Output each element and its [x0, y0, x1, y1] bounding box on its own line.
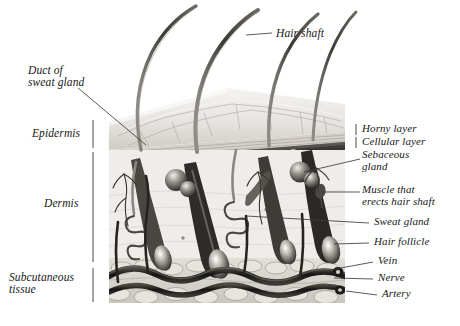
- label-duct-of-sweat-gland: Duct of sweat gland: [28, 64, 84, 89]
- label-artery: Artery: [382, 288, 411, 300]
- label-hair-follicle: Hair follicle: [374, 236, 429, 248]
- label-sebaceous-gland: Sebaceous gland: [362, 149, 409, 172]
- label-dermis: Dermis: [44, 197, 78, 209]
- label-cellular-layer: Cellular layer: [362, 136, 425, 148]
- label-epidermis: Epidermis: [32, 127, 80, 139]
- label-muscle-that-erects-hair-shaft: Muscle that erects hair shaft: [362, 184, 435, 207]
- skin-diagram: Duct of sweat gland Epidermis Dermis Sub…: [0, 0, 460, 326]
- label-vein: Vein: [378, 255, 397, 267]
- label-sweat-gland: Sweat gland: [374, 216, 429, 228]
- label-hair-shaft: Hair shaft: [276, 27, 324, 39]
- label-horny-layer: Horny layer: [362, 123, 417, 135]
- leader-artery: [346, 291, 377, 295]
- label-nerve: Nerve: [378, 272, 405, 284]
- leader-hair-shaft: [246, 33, 272, 35]
- label-subcutaneous-tissue: Subcutaneous tissue: [9, 271, 74, 296]
